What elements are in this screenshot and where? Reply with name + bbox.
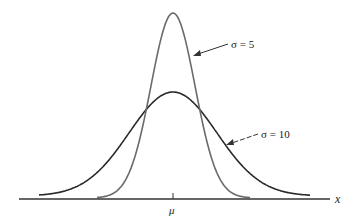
- mu-label: μ: [168, 204, 175, 216]
- curve-sigma-10: [39, 92, 310, 195]
- sigma5-label: σ = 5: [231, 38, 255, 50]
- arrowhead-sigma10-icon: [226, 139, 234, 145]
- chart-svg: x μ σ = 5 σ = 10: [0, 0, 356, 224]
- x-axis-label: x: [334, 192, 341, 206]
- arrowhead-sigma5-icon: [193, 50, 201, 56]
- curve-sigma-5: [97, 13, 250, 198]
- sigma10-label: σ = 10: [261, 128, 290, 140]
- normal-distribution-chart: x μ σ = 5 σ = 10: [0, 0, 356, 224]
- arrow-sigma10: [232, 134, 258, 143]
- arrow-sigma5: [198, 44, 228, 54]
